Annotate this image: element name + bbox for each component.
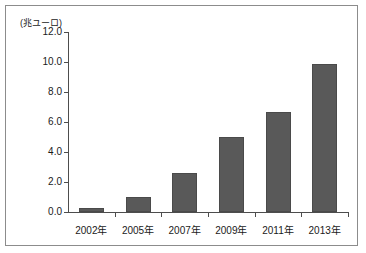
x-axis-label: 2005年	[122, 222, 154, 237]
bar	[266, 112, 291, 213]
chart-figure: (兆ユーロ) 0.02.04.06.08.010.012.0 2002年2005…	[0, 0, 366, 253]
y-axis-tick-label: 0.0	[32, 206, 62, 217]
bar	[219, 137, 244, 212]
y-axis-tick-label: 4.0	[32, 146, 62, 157]
y-axis-tick	[64, 32, 68, 33]
x-axis-tick	[301, 213, 302, 217]
x-axis-tick	[115, 213, 116, 217]
y-axis-tick-label: 10.0	[32, 56, 62, 67]
y-axis-tick-label: 8.0	[32, 86, 62, 97]
y-axis-tick	[64, 62, 68, 63]
bar	[126, 197, 151, 212]
bar	[79, 208, 104, 213]
x-axis-label: 2002年	[75, 222, 107, 237]
plot-area: 0.02.04.06.08.010.012.0 2002年2005年2007年2…	[68, 32, 348, 212]
bar	[172, 173, 197, 212]
x-axis-tick	[208, 213, 209, 217]
y-axis-tick-label: 2.0	[32, 176, 62, 187]
y-axis-line	[68, 32, 69, 213]
x-axis-tick	[255, 213, 256, 217]
y-axis-tick-label: 6.0	[32, 116, 62, 127]
bar	[312, 64, 337, 213]
x-axis-label: 2013年	[309, 222, 341, 237]
x-axis-tick	[161, 213, 162, 217]
y-axis-tick	[64, 122, 68, 123]
y-axis-tick	[64, 152, 68, 153]
x-axis-label: 2009年	[215, 222, 247, 237]
y-axis-tick	[64, 212, 68, 213]
y-axis-tick	[64, 182, 68, 183]
x-axis-label: 2007年	[169, 222, 201, 237]
y-axis-tick	[64, 92, 68, 93]
y-axis-tick-label: 12.0	[32, 26, 62, 37]
x-axis-tick	[348, 213, 349, 217]
x-axis-label: 2011年	[262, 222, 294, 237]
